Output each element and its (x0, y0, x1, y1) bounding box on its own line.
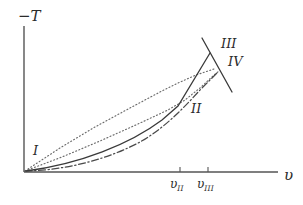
curve-dotted-upper (25, 69, 214, 171)
tick-label-v-ii: υII (170, 178, 184, 193)
curve-label-iii: III (221, 37, 236, 50)
curve-solid-rising (26, 53, 210, 171)
x-axis-label: υ (284, 168, 293, 183)
plot-canvas (0, 0, 303, 205)
phase-diagram-figure: −T υ υII υIII I II III IV (0, 0, 303, 205)
curve-label-ii: II (191, 102, 201, 115)
tick-subscript-v3: III (204, 184, 214, 193)
tick-subscript-v2: II (177, 184, 183, 193)
y-axis-label: −T (18, 9, 41, 24)
curve-label-i: I (33, 144, 38, 157)
tick-label-v-iii: υIII (197, 178, 214, 193)
curve-label-iv: IV (228, 55, 243, 68)
